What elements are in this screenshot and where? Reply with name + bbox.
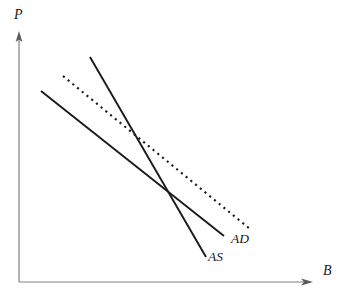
ad-as-diagram: P B AD AS: [0, 0, 342, 303]
curve-as: [90, 57, 206, 257]
curve-label-ad: AD: [231, 232, 249, 246]
diagram-canvas: [0, 0, 342, 303]
x-axis-label: B: [323, 264, 332, 278]
curve-ad: [41, 91, 224, 236]
y-axis-label: P: [14, 8, 23, 22]
curve-label-as: AS: [208, 250, 223, 264]
curve-ad-shifted: [63, 76, 250, 229]
